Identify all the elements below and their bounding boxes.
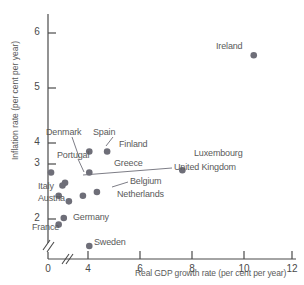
y-axis-title: Inflation rate (per cent per year): [10, 41, 20, 160]
x-tick-label-6: 6: [133, 263, 147, 274]
point-label-sweden: Sweden: [94, 237, 126, 247]
leader-line-spain: [106, 137, 113, 146]
x-tick-label-12: 12: [285, 263, 299, 274]
point-label-greece: Greece: [114, 158, 143, 168]
data-point-ireland: [250, 52, 257, 59]
x-tick-marks: [88, 251, 292, 259]
x-tick-label-4: 4: [81, 263, 95, 274]
leader-line-portugal: [78, 159, 84, 172]
point-label-italy: Italy: [38, 181, 54, 191]
chart-canvas: [0, 0, 304, 285]
data-point-austria: [66, 198, 73, 205]
x-tick-label-8: 8: [185, 263, 199, 274]
point-label-belgium: Belgium: [130, 176, 161, 186]
point-label-ireland: Ireland: [216, 41, 242, 51]
point-label-luxembourg: Luxembourg: [194, 148, 243, 158]
point-label-netherlands: Netherlands: [117, 189, 164, 199]
data-point-belgium: [94, 189, 101, 196]
data-point-sweden: [86, 243, 93, 250]
data-point-greece: [86, 169, 93, 176]
data-point-finland: [104, 148, 111, 155]
y-tick-label-3: 3: [30, 157, 44, 168]
y-tick-label-5: 5: [30, 81, 44, 92]
point-label-france: France: [32, 222, 59, 232]
data-point-denmark: [48, 169, 55, 176]
data-point-united-kingdom: [59, 182, 66, 189]
data-point-germany: [60, 215, 67, 222]
scatter-chart: Inflation rate (per cent per year) Real …: [0, 0, 304, 285]
point-label-portugal: Portugal: [57, 150, 89, 160]
y-tick-label-4: 4: [30, 136, 44, 147]
y-tick-marks: [48, 33, 56, 219]
point-label-austria: Austria: [38, 193, 65, 203]
point-label-finland: Finland: [119, 139, 147, 149]
point-label-denmark: Denmark: [46, 127, 81, 137]
point-label-united-kingdom: United Kingdom: [174, 162, 236, 172]
point-label-spain: Spain: [93, 127, 115, 137]
leader-line-united-kingdom: [83, 168, 172, 175]
y-tick-label-6: 6: [30, 26, 44, 37]
x-axis-title: Real GDP growth rate (per cent per year): [135, 268, 286, 278]
x-tick-label-10: 10: [237, 263, 251, 274]
point-label-germany: Germany: [73, 212, 109, 222]
x-tick-label-0: 0: [41, 263, 55, 274]
leader-line-belgium: [112, 182, 128, 187]
data-point-netherlands: [80, 192, 87, 199]
